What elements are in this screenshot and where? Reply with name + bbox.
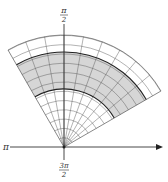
polar-grid [8, 35, 161, 147]
shaded-region [17, 52, 147, 118]
label-bottom-den: 2 [61, 171, 67, 179]
origin-point [63, 146, 66, 149]
polar-diagram: π 2 π 3π 2 [0, 0, 168, 182]
label-3pi-over-2: 3π 2 [59, 162, 69, 179]
shaded-band [17, 52, 147, 118]
grid-arc [45, 110, 96, 129]
label-bottom-num: 3π [59, 162, 68, 170]
grid-arc [50, 119, 88, 133]
label-pi: π [2, 142, 10, 152]
label-pi-over-2: π 2 [60, 6, 68, 24]
grid-arc [55, 128, 80, 137]
label-top-num: π [60, 6, 67, 15]
arrow-head-icon [156, 144, 163, 150]
label-top-den: 2 [61, 16, 67, 24]
